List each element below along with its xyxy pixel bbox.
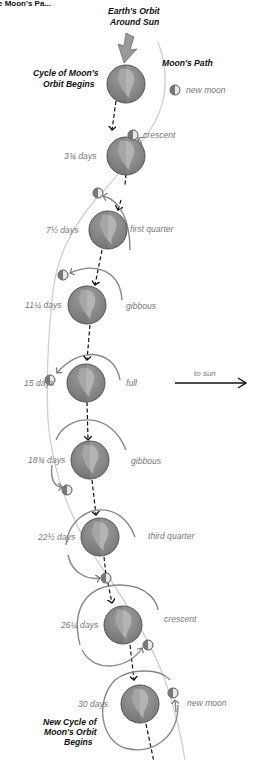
earth-icon: [71, 441, 109, 479]
earth-icon: [67, 364, 105, 402]
earth-icon: [107, 137, 145, 175]
moon-icon: [170, 85, 180, 95]
days-label: 22½ days: [37, 532, 76, 542]
stage-3: 11¼ daysgibbous: [25, 270, 157, 324]
phase-label: third quarter: [148, 531, 195, 541]
phase-label: full: [126, 378, 138, 388]
days-label: 26¼ days: [60, 620, 99, 630]
stage-5: 18¾ daysgibbous: [28, 441, 162, 495]
earth-orbit-label-2: Around Sun: [109, 17, 159, 27]
days-label: 30 days: [78, 699, 109, 709]
phase-label: crescent: [164, 614, 197, 624]
moon-icon: [101, 573, 111, 583]
days-label: 7½ days: [46, 225, 79, 235]
phase-label: new moon: [186, 85, 226, 95]
title-fragment: e Moon's Pa...: [0, 0, 51, 8]
earth-icon: [68, 286, 106, 324]
new-cycle-label-1: New Cycle of: [43, 717, 98, 727]
days-label: 15 days: [24, 378, 55, 388]
earth-icon: [121, 685, 159, 723]
cycle-begins-label-2: Orbit Begins: [43, 79, 95, 89]
new-cycle-label-3: Begins: [64, 737, 93, 747]
earth-icon: [107, 65, 145, 103]
stage-0: new moon: [107, 65, 226, 103]
moon-icon: [168, 688, 178, 698]
moon-icon: [143, 640, 153, 650]
earth-orbit-arrow-icon: [118, 33, 137, 63]
phase-label: crescent: [143, 130, 176, 140]
earth-icon: [104, 606, 142, 644]
moon-icon: [58, 270, 68, 280]
stage-6: 22½ daysthird quarter: [37, 518, 195, 583]
moons-path-label: Moon's Path: [162, 58, 213, 68]
phase-label: gibbous: [131, 456, 162, 466]
days-label: 18¾ days: [28, 455, 66, 465]
new-cycle-label-2: Moon's Orbit: [44, 727, 98, 737]
earth-icon: [81, 518, 119, 556]
to-sun-label: to sun: [194, 369, 216, 378]
stage-4: 15 daysfull: [24, 364, 138, 402]
stage-1: 3¾ dayscrescent: [64, 130, 176, 175]
cycle-begins-label-1: Cycle of Moon's: [33, 68, 99, 78]
days-label: 11¼ days: [25, 300, 62, 310]
moon-orbit-diagram: e Moon's Pa... Earth's Orbit Around Sun …: [0, 0, 255, 768]
moon-icon: [62, 485, 72, 495]
earth-icon: [89, 211, 127, 249]
stage-2: 7½ daysfirst quarter: [46, 188, 175, 249]
moon-icon: [93, 188, 103, 198]
moon-icon: [128, 130, 138, 140]
orbit-stages: new moon3¾ dayscrescent7½ daysfirst quar…: [24, 65, 227, 723]
phase-label: gibbous: [126, 301, 157, 311]
days-label: 3¾ days: [64, 151, 97, 161]
earth-travel-arrows: [87, 101, 154, 762]
phase-label: new moon: [187, 698, 227, 708]
stage-7: 26¼ dayscrescent: [60, 606, 197, 650]
stage-8: 30 daysnew moon: [78, 685, 227, 723]
earth-orbit-label-1: Earth's Orbit: [108, 6, 161, 16]
phase-label: first quarter: [130, 224, 175, 234]
